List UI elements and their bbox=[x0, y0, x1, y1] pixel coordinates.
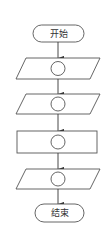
io-step-1 bbox=[16, 58, 100, 79]
step-1-circle bbox=[51, 62, 65, 76]
end-label: 结束 bbox=[51, 207, 69, 218]
end-terminal: 结束 bbox=[35, 204, 84, 222]
io-step-4 bbox=[16, 169, 100, 189]
process-step-3 bbox=[17, 131, 97, 153]
step-3-circle bbox=[51, 135, 65, 149]
step-2-circle bbox=[51, 97, 65, 111]
flowchart: 开始 结束 bbox=[0, 0, 111, 233]
io-step-2 bbox=[16, 94, 100, 114]
start-terminal: 开始 bbox=[33, 25, 84, 42]
start-label: 开始 bbox=[50, 28, 68, 39]
step-4-circle bbox=[51, 172, 65, 186]
